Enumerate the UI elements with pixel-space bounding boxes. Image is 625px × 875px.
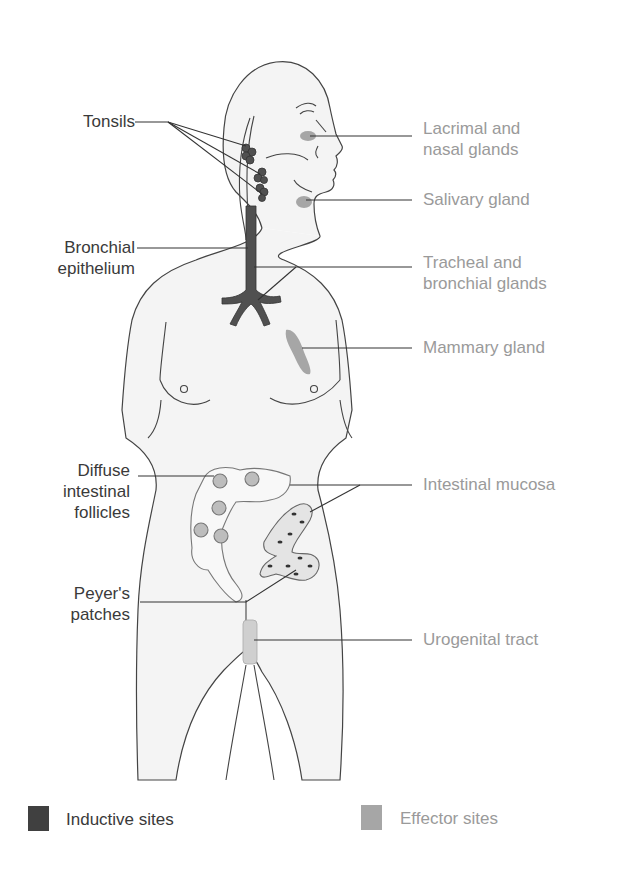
label-tonsils: Tonsils <box>83 111 135 132</box>
label-diffuse-intestinal-follicles: Diffuse intestinal follicles <box>63 460 130 523</box>
label-intestinal-mucosa: Intestinal mucosa <box>423 474 555 495</box>
label-line: bronchial glands <box>423 273 547 294</box>
label-line: Mammary gland <box>423 337 545 358</box>
leg-lines <box>226 665 274 780</box>
label-line: Salivary gland <box>423 189 530 210</box>
label-tracheal-bronchial-glands: Tracheal and bronchial glands <box>423 252 547 294</box>
label-line: Bronchial <box>58 237 136 258</box>
label-line: intestinal <box>63 481 130 502</box>
label-line: nasal glands <box>423 139 520 160</box>
inductive-sites-swatch <box>28 806 49 831</box>
label-line: Lacrimal and <box>423 118 520 139</box>
label-line: Urogenital tract <box>423 629 538 650</box>
label-peyers-patches: Peyer's patches <box>70 583 130 625</box>
label-line: Intestinal mucosa <box>423 474 555 495</box>
label-line: Tracheal and <box>423 252 547 273</box>
label-salivary-gland: Salivary gland <box>423 189 530 210</box>
urogenital-tract-icon <box>243 620 257 664</box>
inductive-sites-label: Inductive sites <box>66 809 174 830</box>
label-mammary-gland: Mammary gland <box>423 337 545 358</box>
label-line: epithelium <box>58 258 136 279</box>
label-line: Diffuse <box>63 460 130 481</box>
label-urogenital-tract: Urogenital tract <box>423 629 538 650</box>
label-line: patches <box>70 604 130 625</box>
salivary-gland-icon <box>296 196 312 208</box>
effector-sites-label: Effector sites <box>400 808 498 829</box>
label-line: Tonsils <box>83 111 135 132</box>
label-line: follicles <box>63 502 130 523</box>
effector-sites-swatch <box>361 805 382 830</box>
label-lacrimal-nasal-glands: Lacrimal and nasal glands <box>423 118 520 160</box>
body-silhouette <box>122 62 352 780</box>
label-bronchial-epithelium: Bronchial epithelium <box>58 237 136 279</box>
label-line: Peyer's <box>70 583 130 604</box>
